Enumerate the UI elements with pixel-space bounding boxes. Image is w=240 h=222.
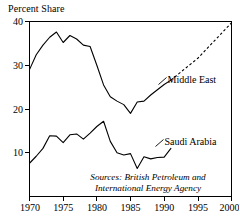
axis-frame: [29, 21, 232, 197]
y-tick-label-40: 40: [13, 16, 23, 27]
series-label-saudi-arabia: Saudi Arabia: [165, 136, 217, 147]
source-note: Sources: British Petroleum and Internati…: [90, 172, 206, 193]
series-label-middle-east-group: Middle East: [159, 74, 217, 85]
leader-line-saudi-arabia: [156, 140, 164, 147]
series-line-middle-east: [30, 32, 171, 113]
plot-area: 40 30 20 10 1970 1975 1980 1985 1990 199…: [0, 0, 239, 222]
y-tick-label-10: 10: [13, 147, 23, 158]
x-tick-label-1975: 1975: [53, 202, 73, 213]
y-ticks: [25, 22, 30, 153]
x-tick-label-1995: 1995: [188, 202, 208, 213]
source-note-line-1: Sources: British Petroleum and: [90, 172, 206, 182]
y-tick-label-20: 20: [13, 104, 23, 115]
y-tick-label-30: 30: [13, 60, 23, 71]
series-label-middle-east: Middle East: [168, 74, 217, 85]
x-tick-labels: 1970 1975 1980 1985 1990 1995 2000: [20, 202, 239, 213]
source-note-line-2: International Energy Agency: [94, 183, 202, 193]
x-tick-label-1990: 1990: [154, 202, 174, 213]
x-tick-label-1970: 1970: [20, 202, 40, 213]
y-tick-labels: 40 30 20 10: [13, 16, 23, 158]
x-tick-label-1985: 1985: [121, 202, 141, 213]
series-line-saudi-arabia: [30, 121, 171, 168]
series-line-middle-east-projection: [171, 23, 232, 80]
x-ticks: [30, 197, 232, 202]
series-label-saudi-arabia-group: Saudi Arabia: [156, 136, 217, 147]
x-tick-label-1980: 1980: [87, 202, 107, 213]
chart-figure: Percent Share 40 30 20 10: [0, 0, 239, 222]
x-tick-label-2000: 2000: [220, 202, 240, 213]
